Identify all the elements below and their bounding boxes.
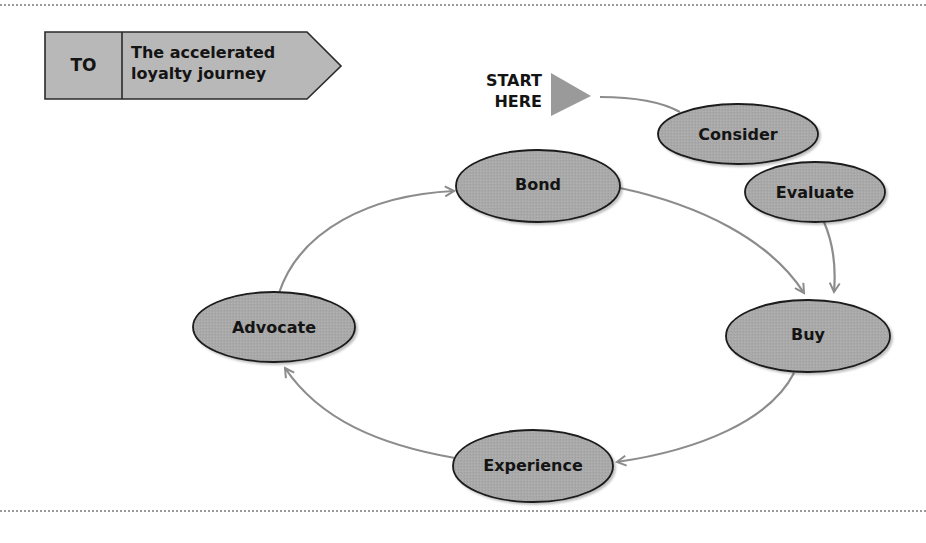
arrow-buy-to-experience xyxy=(617,373,794,462)
arrow-advocate-to-bond xyxy=(279,191,454,293)
node-buy-label: Buy xyxy=(791,325,825,344)
header-title: The accelerated loyalty journey xyxy=(131,42,311,84)
start-label-line1: START xyxy=(472,70,542,91)
node-evaluate-label: Evaluate xyxy=(776,183,854,202)
node-experience-label: Experience xyxy=(483,456,583,475)
node-bond-label: Bond xyxy=(515,175,561,194)
arrow-experience-to-advocate xyxy=(285,368,455,458)
start-label-line2: HERE xyxy=(472,91,542,112)
arrow-start-to-consider xyxy=(600,97,680,112)
start-label: START HERE xyxy=(472,70,542,112)
node-advocate-label: Advocate xyxy=(232,318,316,337)
start-triangle-icon xyxy=(551,73,591,116)
node-consider-label: Consider xyxy=(698,125,777,144)
header-tag: TO xyxy=(45,32,122,98)
arrow-evaluate-to-buy xyxy=(824,222,835,292)
header-title-line1: The accelerated xyxy=(131,42,311,63)
header-title-line2: loyalty journey xyxy=(131,63,311,84)
